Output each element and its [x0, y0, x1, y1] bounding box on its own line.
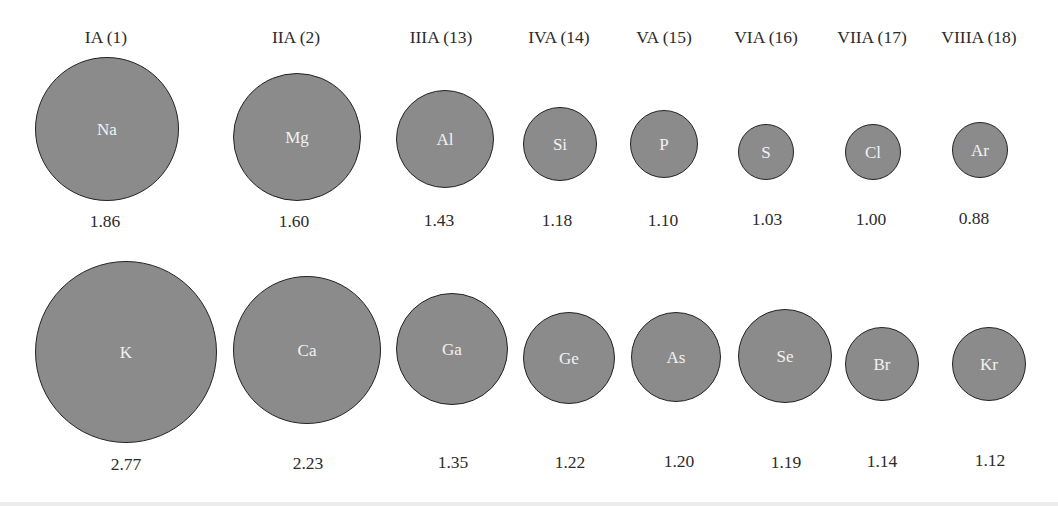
atom-circle-mg: Mg: [233, 73, 361, 201]
element-symbol: Ge: [559, 350, 579, 367]
group-header: VIIA (17): [837, 26, 907, 48]
element-symbol: Na: [97, 121, 117, 138]
element-symbol: S: [761, 144, 770, 161]
element-symbol: Cl: [865, 144, 881, 161]
element-symbol: K: [120, 344, 132, 361]
atomic-radius-value: 1.35: [438, 451, 469, 473]
atom-circle-se: Se: [738, 309, 832, 403]
group-header: IIA (2): [272, 26, 320, 48]
atomic-radius-value: 1.12: [975, 449, 1006, 471]
atomic-radius-value: 1.20: [664, 450, 695, 472]
atomic-radius-value: 1.60: [279, 210, 310, 232]
atomic-radius-value: 1.19: [771, 451, 802, 473]
atom-circle-cl: Cl: [845, 124, 901, 180]
atom-circle-as: As: [631, 312, 721, 402]
atomic-radius-value: 1.18: [542, 209, 573, 231]
element-symbol: Al: [437, 131, 454, 148]
atomic-radius-value: 0.88: [959, 207, 990, 229]
atom-circle-al: Al: [396, 90, 494, 188]
group-header: IVA (14): [528, 26, 589, 48]
atom-circle-na: Na: [35, 57, 179, 201]
atom-circle-ga: Ga: [396, 293, 508, 405]
element-symbol: Kr: [980, 356, 998, 373]
atomic-radius-value: 1.10: [648, 209, 679, 231]
group-header: IIIA (13): [410, 26, 473, 48]
element-symbol: Ga: [442, 341, 462, 358]
group-header: VIA (16): [734, 26, 798, 48]
atomic-radius-value: 1.22: [555, 451, 586, 473]
element-symbol: Br: [874, 356, 891, 373]
atom-circle-ar: Ar: [952, 122, 1008, 178]
atom-circle-ge: Ge: [523, 312, 615, 404]
atom-circle-si: Si: [523, 107, 597, 181]
atom-circle-k: K: [35, 261, 217, 443]
group-header: IA (1): [85, 26, 127, 48]
group-header: VA (15): [636, 26, 692, 48]
atom-circle-br: Br: [845, 327, 919, 401]
element-symbol: P: [659, 136, 668, 153]
atomic-radius-value: 1.14: [867, 450, 898, 472]
element-symbol: Ca: [298, 342, 317, 359]
atomic-radius-value: 2.77: [111, 453, 142, 475]
atomic-radius-value: 1.86: [90, 210, 121, 232]
bottom-band: [0, 502, 1058, 506]
atom-circle-kr: Kr: [952, 327, 1026, 401]
element-symbol: As: [667, 349, 686, 366]
element-symbol: Ar: [971, 142, 989, 159]
atom-circle-s: S: [738, 124, 794, 180]
atom-circle-ca: Ca: [233, 276, 381, 424]
element-symbol: Mg: [285, 129, 309, 146]
element-symbol: Se: [777, 348, 794, 365]
atom-circle-p: P: [630, 110, 698, 178]
atomic-radii-diagram: IA (1)IIA (2)IIIA (13)IVA (14)VA (15)VIA…: [0, 0, 1058, 506]
atomic-radius-value: 1.03: [752, 208, 783, 230]
group-header: VIIIA (18): [941, 26, 1016, 48]
atomic-radius-value: 2.23: [293, 452, 324, 474]
element-symbol: Si: [553, 136, 567, 153]
atomic-radius-value: 1.00: [856, 208, 887, 230]
atomic-radius-value: 1.43: [424, 209, 455, 231]
